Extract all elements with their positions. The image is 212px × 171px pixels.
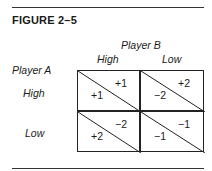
diagonal-line	[78, 71, 141, 112]
payoff-matrix: +1 +1 −2 +2 +2 −2 −1 −1	[77, 70, 204, 152]
column-header-high: High	[97, 53, 119, 65]
player-b-payoff: +1	[115, 77, 127, 89]
row-header-high: High	[23, 87, 45, 99]
diagonal-line	[78, 112, 141, 153]
row-header-low: Low	[25, 127, 44, 139]
player-b-payoff: −1	[178, 118, 190, 130]
player-a-payoff: −1	[154, 130, 166, 142]
player-a-payoff: +2	[91, 130, 103, 142]
bottom-rule	[12, 168, 204, 169]
payoff-cell: +1 +1	[77, 70, 140, 111]
diagonal-line	[141, 71, 205, 112]
player-b-payoff: +2	[178, 77, 190, 89]
payoff-cell: −2 +2	[140, 70, 204, 111]
player-a-payoff: −2	[154, 89, 166, 101]
column-header-low: Low	[162, 53, 181, 65]
figure-title: FIGURE 2–5	[12, 14, 77, 26]
player-b-label: Player B	[121, 39, 161, 51]
diagonal-line	[141, 112, 205, 153]
player-b-payoff: −2	[115, 118, 127, 130]
payoff-cell: +2 −2	[77, 111, 140, 152]
payoff-cell: −1 −1	[140, 111, 204, 152]
top-rule	[12, 7, 204, 8]
player-a-payoff: +1	[91, 89, 103, 101]
player-a-label: Player A	[12, 64, 51, 76]
